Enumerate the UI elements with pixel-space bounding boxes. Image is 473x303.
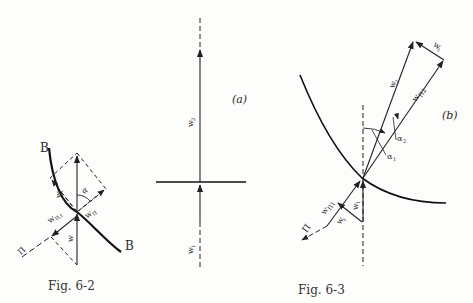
- panel-label-b: (b): [442, 109, 458, 122]
- curve-b: [49, 148, 121, 252]
- svg-text:Π2: Π2: [417, 87, 428, 99]
- caption-fig-6-3: Fig. 6-3: [298, 283, 345, 297]
- alpha1-arc: [363, 128, 385, 133]
- label-wt-low: w t: [334, 214, 347, 226]
- alpha-arc: [77, 195, 90, 201]
- diagram-canvas: B B α w t w Π w Π,t w Π: [0, 0, 473, 303]
- label-alpha: α: [80, 185, 90, 196]
- label-w2: w 2: [186, 118, 196, 127]
- label-wt-top: w t: [431, 40, 443, 53]
- diagram-svg: B B α w t w Π w Π,t w Π: [0, 0, 473, 303]
- label-w1: w 1: [351, 201, 361, 210]
- panel-label-a: (a): [232, 93, 247, 106]
- label-alpha2: α 2: [397, 134, 406, 144]
- figure-6-2: B B α w t w Π w Π,t w Π: [16, 141, 134, 293]
- label-b-bottom: B: [125, 239, 134, 253]
- svg-text:Π,t: Π,t: [54, 212, 64, 222]
- svg-text:Π1: Π1: [326, 200, 337, 211]
- alpha2-leader: [393, 117, 396, 140]
- pi-axis: [22, 237, 50, 257]
- label-b-top: B: [40, 141, 49, 155]
- svg-text:2: 2: [190, 118, 196, 121]
- svg-text:1: 1: [355, 201, 361, 204]
- figure-6-3a: (a) w 2 w 1: [156, 18, 247, 267]
- svg-text:1: 1: [393, 156, 396, 162]
- dashed-rectangle: [50, 153, 106, 212]
- label-pi: Π: [300, 222, 313, 234]
- label-w1: w 1: [186, 245, 196, 254]
- label-alpha1: α 1: [387, 152, 396, 162]
- alpha2-arc: [396, 113, 398, 119]
- label-w-parallel-d: w Π,t: [46, 209, 64, 226]
- label-w-parallel-1: w Π1: [319, 198, 336, 217]
- label-w-t: w t: [54, 190, 64, 198]
- label-w: w: [66, 235, 75, 242]
- svg-text:2: 2: [403, 138, 406, 144]
- svg-text:1: 1: [190, 245, 196, 248]
- caption-fig-6-2: Fig. 6-2: [48, 279, 95, 293]
- label-w2: w 2: [388, 78, 401, 90]
- svg-text:t: t: [58, 190, 64, 192]
- arrow-w-parallel-2: [363, 61, 443, 178]
- figure-6-3b: α 1 α 2 (b) w 2 w Π2 w t w 1 w: [298, 40, 458, 297]
